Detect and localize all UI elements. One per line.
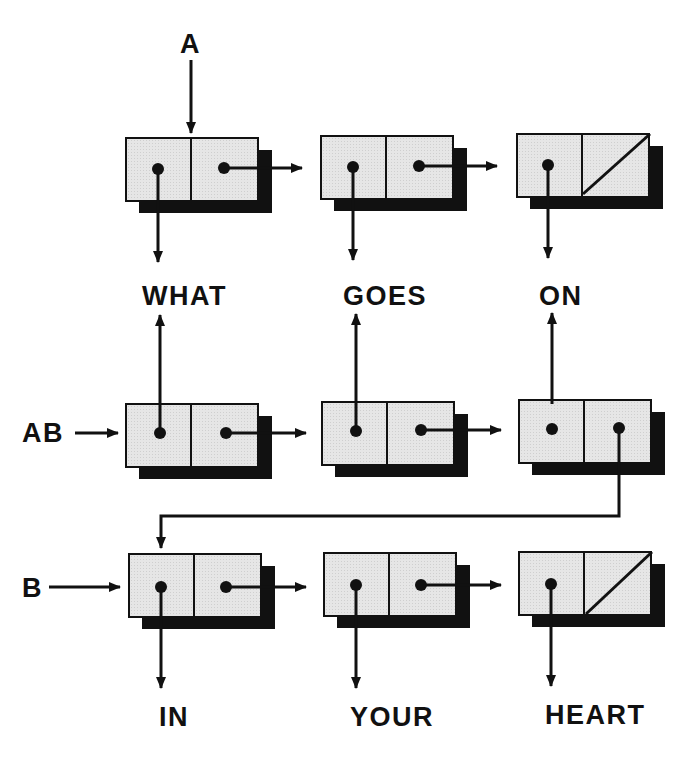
- linked-list-diagram: A AB B WHAT GOES ON IN YOUR HEART: [0, 0, 688, 760]
- nil-slash: [583, 134, 650, 194]
- nil-slash: [586, 552, 652, 614]
- pointer-arrows-layer: [0, 0, 688, 760]
